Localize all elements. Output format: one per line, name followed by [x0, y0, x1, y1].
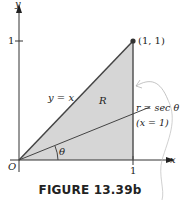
polar-region-diagram: y 1 x 1 O (1, 1) y = x R r = sec θ (x = …: [0, 0, 180, 200]
angle-label: θ: [59, 146, 65, 157]
x-tick-label: 1: [130, 165, 136, 176]
polar-line-cartesian-label: (x = 1): [136, 117, 169, 128]
x-axis-label: x: [170, 154, 176, 165]
line-y-eq-x-label: y = x: [47, 92, 74, 103]
y-axis-label: y: [14, 0, 21, 9]
handwritten-arrow-icon: [136, 82, 168, 100]
point-1-1: [130, 38, 135, 43]
handwritten-arrowhead-icon: [136, 80, 142, 88]
region-label: R: [98, 95, 107, 106]
point-label: (1, 1): [138, 35, 165, 46]
figure-caption: FIGURE 13.39b: [0, 183, 180, 197]
y-tick-label: 1: [8, 35, 14, 46]
polar-line-label: r = sec θ: [136, 102, 179, 113]
origin-label: O: [8, 161, 16, 172]
